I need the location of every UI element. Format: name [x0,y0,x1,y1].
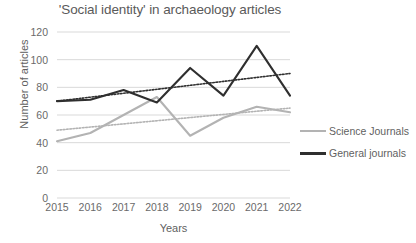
trendline-science-journals [57,108,290,130]
x-axis-title: Years [57,222,290,234]
legend-label: General journals [329,147,406,159]
y-axis-tick: 20 [14,164,48,176]
legend-item[interactable]: General journals [300,142,416,164]
x-axis-tick-labels: 20152016201720182019202020212022 [57,201,290,217]
y-axis-tick: 100 [14,54,48,66]
plot-svg [57,32,290,198]
plot-area [57,32,290,198]
y-axis-tick: 80 [14,81,48,93]
legend-line-icon [300,130,326,133]
series-line-general-journals [57,46,290,103]
x-axis-tick: 2022 [270,201,310,213]
y-axis-tick: 60 [14,109,48,121]
y-axis-tick: 40 [14,137,48,149]
legend-line-icon [300,152,326,155]
chart-legend: Science JournalsGeneral journals [300,120,416,164]
chart-title: 'Social identity' in archaeology article… [0,2,340,17]
y-axis-tick: 120 [14,26,48,38]
chart-container: 'Social identity' in archaeology article… [0,0,416,243]
legend-item[interactable]: Science Journals [300,120,416,142]
legend-label: Science Journals [329,125,409,137]
